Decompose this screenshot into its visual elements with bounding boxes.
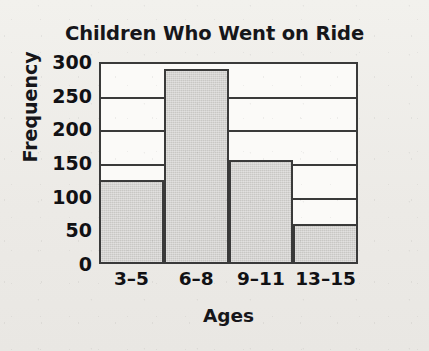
chart-title: Children Who Went on Ride bbox=[0, 22, 429, 45]
y-tick-label-50: 50 bbox=[40, 221, 92, 240]
x-tick-label-1: 6–8 bbox=[164, 268, 229, 289]
bars-layer bbox=[99, 62, 358, 264]
x-axis-title: Ages bbox=[99, 305, 358, 326]
y-axis-tick-labels: 300 250 200 150 100 50 0 bbox=[36, 62, 92, 264]
x-tick-label-3: 13–15 bbox=[293, 268, 358, 289]
y-tick-label-150: 150 bbox=[40, 154, 92, 173]
x-tick-label-2: 9–11 bbox=[229, 268, 294, 289]
x-axis-tick-labels: 3–56–89–1113–15 bbox=[99, 268, 358, 298]
y-tick-label-200: 200 bbox=[40, 120, 92, 139]
y-tick-label-300: 300 bbox=[40, 53, 92, 72]
chart-page: Children Who Went on Ride Frequency 300 … bbox=[0, 0, 429, 351]
x-tick-label-0: 3–5 bbox=[99, 268, 164, 289]
bar-3–5 bbox=[99, 180, 164, 264]
bar-13–15 bbox=[293, 224, 358, 264]
y-tick-label-100: 100 bbox=[40, 188, 92, 207]
bar-6–8 bbox=[164, 69, 229, 264]
y-tick-label-250: 250 bbox=[40, 87, 92, 106]
y-tick-label-0: 0 bbox=[40, 255, 92, 274]
bar-9–11 bbox=[229, 160, 294, 264]
